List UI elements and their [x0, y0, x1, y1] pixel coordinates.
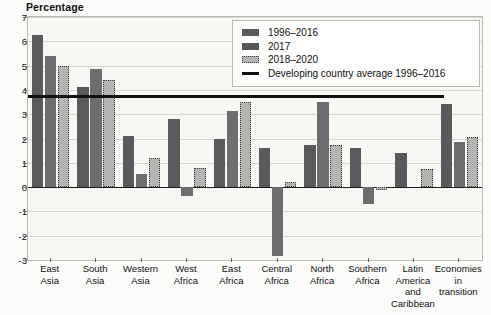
- legend-item: Developing country average 1996–2016: [242, 67, 472, 81]
- x-axis-tick-mark: [141, 258, 142, 262]
- x-axis-label-line: transition: [431, 286, 486, 298]
- legend-swatch-icon: [242, 72, 259, 75]
- legend-swatch-icon: [242, 56, 259, 63]
- bar: [395, 153, 406, 187]
- bar: [304, 145, 315, 188]
- bar: [77, 87, 88, 187]
- bar: [421, 169, 432, 187]
- x-axis-tick-mark: [186, 258, 187, 262]
- bar: [259, 148, 270, 187]
- bar: [45, 56, 56, 187]
- bar: [376, 187, 387, 189]
- legend-item-label: 2018–2020: [268, 54, 318, 65]
- x-axis-tick-mark: [50, 258, 51, 262]
- x-axis-tick-mark: [413, 258, 414, 262]
- bar: [227, 111, 238, 188]
- bar: [467, 137, 478, 187]
- bar: [330, 145, 341, 188]
- legend-item-label: 1996–2016: [268, 27, 318, 38]
- x-axis-label-line: in: [431, 275, 486, 287]
- x-axis-tick-mark: [95, 258, 96, 262]
- bar: [363, 187, 374, 204]
- x-axis-tick-mark: [231, 258, 232, 262]
- bar: [181, 187, 192, 196]
- legend-item-label: Developing country average 1996–2016: [268, 68, 445, 79]
- bar: [317, 102, 328, 187]
- bar: [272, 187, 283, 256]
- bar: [441, 104, 452, 187]
- gridline: [28, 211, 482, 212]
- x-axis-tick-label: Economiesintransition: [431, 263, 486, 298]
- y-axis: 76543210-1-2-3: [0, 16, 27, 261]
- x-axis-label-line: Caribbean: [385, 298, 440, 310]
- legend-item: 1996–2016: [242, 26, 472, 40]
- gridline: [28, 236, 482, 237]
- legend-swatch-icon: [242, 29, 259, 36]
- bar: [123, 136, 134, 187]
- y-axis-title: Percentage: [26, 1, 84, 13]
- legend-swatch-icon: [242, 43, 259, 50]
- chart-legend: 1996–201620172018–2020Developing country…: [232, 20, 480, 87]
- bar: [136, 174, 147, 187]
- bar: [58, 66, 69, 188]
- bar: [240, 102, 251, 187]
- bar: [90, 69, 101, 187]
- gridline: [28, 17, 482, 18]
- x-axis-label-line: Economies: [431, 263, 486, 275]
- zero-axis-line: [28, 187, 482, 188]
- x-axis-tick-mark: [458, 258, 459, 262]
- bar: [32, 35, 43, 187]
- x-axis-tick-mark: [322, 258, 323, 262]
- x-axis-tick-mark: [277, 258, 278, 262]
- legend-item: 2017: [242, 40, 472, 54]
- x-axis-labels: EastAsiaSouthAsiaWesternAsiaWestAfricaEa…: [27, 263, 483, 315]
- average-line: [28, 95, 444, 98]
- x-axis-tick-mark: [368, 258, 369, 262]
- bar: [350, 148, 361, 187]
- bar: [454, 142, 465, 187]
- legend-item-label: 2017: [268, 41, 290, 52]
- bar: [168, 119, 179, 187]
- bar: [194, 168, 205, 187]
- gridline: [28, 260, 482, 261]
- bar: [285, 182, 296, 187]
- bar: [149, 158, 160, 187]
- bar: [214, 139, 225, 188]
- legend-item: 2018–2020: [242, 53, 472, 67]
